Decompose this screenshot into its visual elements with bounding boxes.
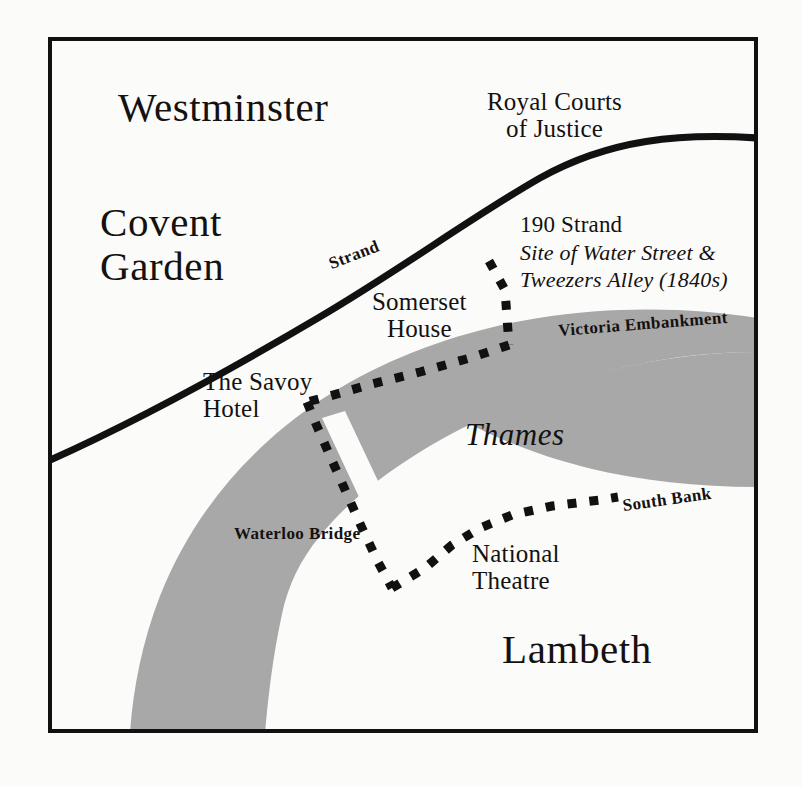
road-label-waterloo-bridge: Waterloo Bridge <box>234 525 360 543</box>
annotation-subtitle: Site of Water Street & Tweezers Alley (1… <box>520 240 728 294</box>
place-label-somerset-house: Somerset House <box>372 288 467 342</box>
water-label-thames: Thames <box>465 418 564 451</box>
place-label-the-savoy-hotel: The Savoy Hotel <box>203 368 312 422</box>
place-label-national-theatre: National Theatre <box>472 540 560 594</box>
district-label-lambeth: Lambeth <box>502 627 652 671</box>
annotation-title: 190 Strand <box>520 213 728 238</box>
map-figure: Westminster Covent Garden Lambeth Royal … <box>0 0 802 787</box>
district-label-covent-garden: Covent Garden <box>100 200 224 289</box>
annotation-190-strand: 190 Strand Site of Water Street & Tweeze… <box>520 213 728 293</box>
district-label-westminster: Westminster <box>118 85 329 129</box>
place-label-royal-courts-of-justice: Royal Courts of Justice <box>487 88 622 142</box>
